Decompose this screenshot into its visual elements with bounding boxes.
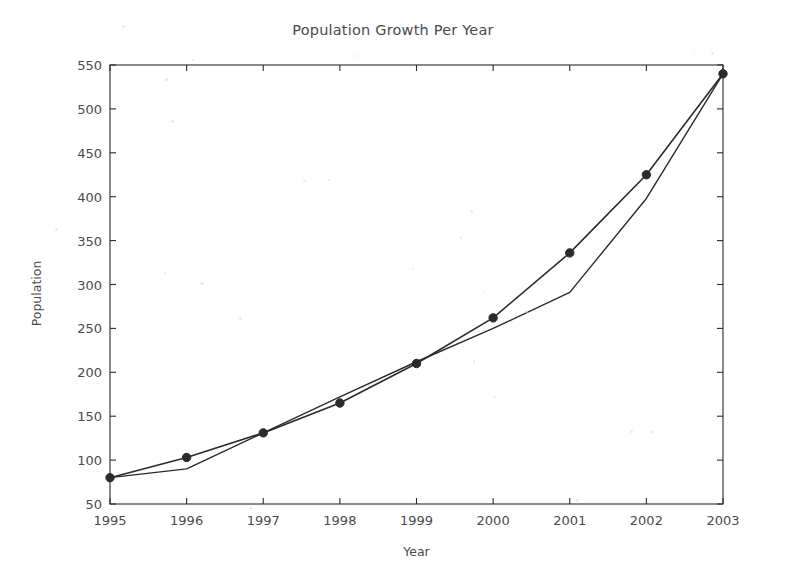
scan-speckle (483, 291, 484, 292)
data-point-marker (336, 399, 344, 407)
x-tick-label: 1998 (323, 513, 356, 528)
data-point-marker (719, 70, 727, 78)
y-tick-label: 500 (46, 101, 102, 116)
y-axis-tick-labels: 50100150200250300350400450500550 (44, 0, 102, 587)
scan-speckle (270, 95, 271, 96)
y-tick-label: 200 (46, 365, 102, 380)
x-tick-label: 1997 (247, 513, 280, 528)
scan-speckle (470, 210, 473, 213)
y-tick-label: 250 (46, 321, 102, 336)
scan-speckle (164, 272, 166, 274)
scan-speckle (525, 310, 528, 313)
scan-speckle (250, 506, 253, 509)
data-point-marker (182, 453, 190, 461)
scan-speckle (412, 268, 414, 270)
y-tick-label: 450 (46, 145, 102, 160)
scan-speckle (328, 179, 330, 181)
y-tick-label: 50 (46, 497, 102, 512)
scan-speckle (576, 499, 579, 502)
x-tick-label: 1995 (93, 513, 126, 528)
series-line-series-1 (110, 74, 723, 478)
scan-speckle (694, 49, 695, 50)
x-tick-label: 1996 (170, 513, 203, 528)
x-tick-label: 1999 (400, 513, 433, 528)
data-point-marker (106, 473, 114, 481)
y-tick-label: 100 (46, 453, 102, 468)
x-tick-label: 2000 (477, 513, 510, 528)
plot-area (0, 0, 786, 587)
y-tick-label: 300 (46, 277, 102, 292)
data-point-marker (642, 171, 650, 179)
scan-speckle (494, 396, 496, 398)
y-tick-label: 350 (46, 233, 102, 248)
x-tick-label: 2002 (630, 513, 663, 528)
y-tick-label: 400 (46, 189, 102, 204)
scan-speckle (356, 55, 358, 57)
y-axis-label-text: Population (30, 261, 45, 327)
scan-speckle (711, 52, 714, 55)
scan-speckle (171, 120, 174, 123)
scan-speckle (200, 282, 203, 285)
series-line-series-2 (110, 74, 723, 478)
scan-speckle (165, 78, 168, 81)
scan-speckle (630, 430, 633, 433)
y-tick-label: 150 (46, 409, 102, 424)
data-series-layer (106, 70, 727, 482)
scan-speckle (460, 236, 463, 239)
chart-title: Population Growth Per Year (0, 22, 786, 38)
x-axis-tick-labels: 199519961997199819992000200120022003 (0, 513, 786, 535)
chart-figure: Population Growth Per Year Population 50… (0, 0, 786, 587)
data-point-marker (412, 359, 420, 367)
scan-speckle (473, 360, 476, 363)
scan-speckle (650, 431, 653, 434)
data-point-marker (259, 429, 267, 437)
scan-speckle (239, 317, 241, 319)
x-tick-label: 2003 (706, 513, 739, 528)
scan-speckle (303, 180, 305, 182)
x-tick-label: 2001 (553, 513, 586, 528)
data-point-marker (566, 249, 574, 257)
x-axis-label: Year (110, 544, 723, 559)
data-point-marker (489, 314, 497, 322)
y-tick-label: 550 (46, 58, 102, 73)
scan-speckle (192, 59, 194, 61)
